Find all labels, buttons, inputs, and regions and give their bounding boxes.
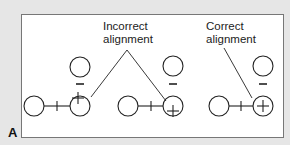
correct-label-line2: alignment [206,33,256,46]
incorrect-alignment-label: Incorrect alignment [103,20,153,46]
incorrect-label-line2: alignment [103,33,153,46]
correct-label-line1: Correct [206,20,256,33]
panel-label: A [8,125,17,140]
correct-alignment-label: Correct alignment [206,20,256,46]
incorrect-label-line1: Incorrect [103,20,153,33]
